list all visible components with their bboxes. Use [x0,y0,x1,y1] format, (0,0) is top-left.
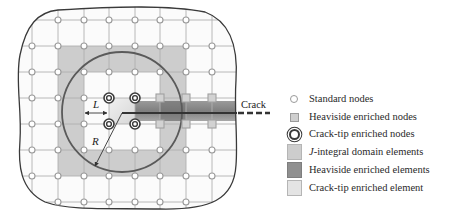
pale-gray-box-icon [286,180,302,196]
dark-gray-box-icon [286,162,302,178]
legend-label: Crack-tip enriched element [309,180,423,196]
crack-label: Crack [241,99,267,110]
l-label: L [92,98,99,110]
legend-label: Heaviside enriched nodes [309,109,417,125]
legend-item-crack-tip-element: Crack-tip enriched element [286,180,302,196]
legend-item-heaviside-nodes: Heaviside enriched nodes [286,109,302,125]
legend-label: Crack-tip enriched nodes [309,126,415,142]
light-gray-box-icon [286,144,302,160]
legend-label: J-integral domain elements [309,144,423,160]
double-circle-node-icon [286,126,302,142]
legend-item-crack-tip-nodes: Crack-tip enriched nodes [286,126,302,142]
domain-body [0,0,260,222]
legend-item-standard-nodes: Standard nodes [286,91,302,107]
legend-item-j-integral-elements: J-integral domain elements [286,144,302,160]
square-node-icon [286,109,302,125]
legend-label: Standard nodes [309,91,373,107]
r-label: R [91,135,99,147]
legend-item-heaviside-elements: Heaviside enriched elements [286,162,302,178]
legend-label: Heaviside enriched elements [309,162,430,178]
circle-node-icon [286,91,302,107]
